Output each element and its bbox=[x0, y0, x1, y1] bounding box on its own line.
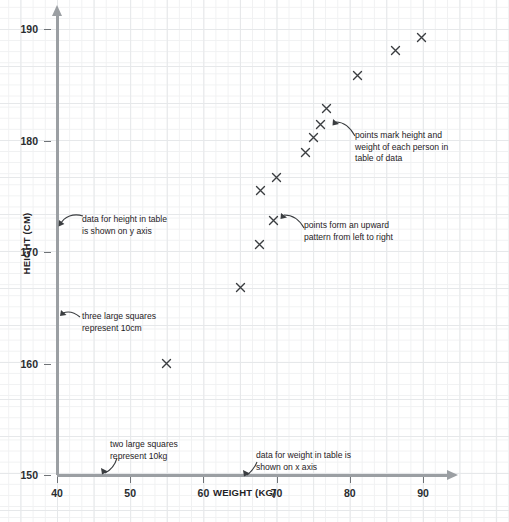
data-point-marker bbox=[161, 358, 172, 369]
x-axis-tick-label: 80 bbox=[344, 487, 356, 499]
y-axis-tick bbox=[44, 475, 51, 476]
annotation-y-scale-note: three large squares represent 10cm bbox=[82, 311, 156, 334]
data-point-marker bbox=[390, 45, 401, 56]
x-axis-line bbox=[57, 474, 451, 477]
annotation-y-axis-data-note: data for height in table is shown on y a… bbox=[82, 214, 167, 237]
data-point-marker bbox=[416, 32, 427, 43]
y-axis-tick-label: 150 bbox=[4, 469, 38, 481]
data-point-marker bbox=[254, 239, 265, 250]
y-axis-tick bbox=[44, 252, 51, 253]
y-axis-title: HEIGHT (CM) bbox=[21, 213, 32, 275]
x-axis-tick bbox=[423, 477, 424, 483]
data-point-marker bbox=[271, 172, 282, 183]
data-point-marker bbox=[321, 103, 332, 114]
x-axis-tick-label: 90 bbox=[417, 487, 429, 499]
y-axis-tick bbox=[44, 29, 51, 30]
y-axis-arrow-icon bbox=[52, 5, 62, 16]
x-axis-tick-label: 50 bbox=[124, 487, 136, 499]
data-point-marker bbox=[268, 215, 279, 226]
annotation-arrow-points-pattern-note bbox=[278, 213, 306, 233]
x-axis-title: WEIGHT (KG) bbox=[213, 487, 276, 498]
y-axis-line bbox=[56, 15, 59, 475]
data-point-marker bbox=[308, 132, 319, 143]
x-axis-tick-label: 40 bbox=[51, 487, 63, 499]
data-point-marker bbox=[300, 147, 311, 158]
data-point-marker bbox=[352, 70, 363, 81]
scatter-graph-figure: 405060708090150160170180190 WEIGHT (KG) … bbox=[0, 0, 509, 522]
grid-major bbox=[0, 0, 509, 522]
grid-minor bbox=[0, 0, 509, 522]
x-axis-tick bbox=[350, 477, 351, 483]
x-axis-tick-label: 60 bbox=[198, 487, 210, 499]
x-axis-tick bbox=[203, 477, 204, 483]
annotation-points-pattern-note: points form an upward pattern from left … bbox=[304, 220, 393, 243]
x-axis-tick bbox=[57, 477, 58, 483]
y-axis-tick bbox=[44, 364, 51, 365]
x-axis-arrow-icon bbox=[447, 470, 458, 480]
data-point-marker bbox=[315, 119, 326, 130]
y-axis-tick-label: 180 bbox=[4, 135, 38, 147]
data-point-marker bbox=[255, 185, 266, 196]
y-axis-tick-label: 190 bbox=[4, 23, 38, 35]
data-point-marker bbox=[235, 282, 246, 293]
annotation-arrow-y-scale-note bbox=[58, 308, 82, 324]
y-axis-tick-label: 160 bbox=[4, 358, 38, 370]
y-axis-tick bbox=[44, 141, 51, 142]
x-axis-tick bbox=[130, 477, 131, 483]
annotation-arrow-points-meaning-note bbox=[330, 119, 358, 141]
annotation-x-axis-data-note: data for weight in table is shown on x a… bbox=[256, 450, 351, 473]
annotation-points-meaning-note: points mark height and weight of each pe… bbox=[355, 130, 448, 165]
annotation-x-scale-note: two large squares represent 10kg bbox=[110, 439, 178, 462]
x-axis-tick bbox=[277, 477, 278, 483]
